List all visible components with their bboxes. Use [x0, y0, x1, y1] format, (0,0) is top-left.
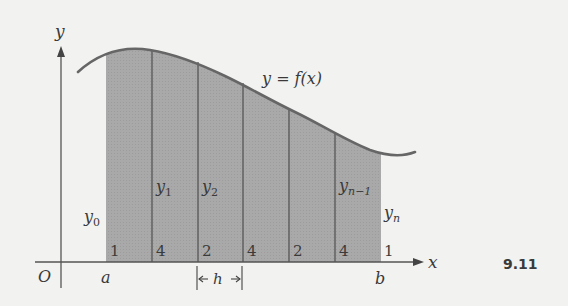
ordinate-y0: y0 [83, 207, 100, 229]
x-axis-label: x [428, 252, 438, 272]
h-label: h [213, 270, 223, 288]
origin-label: O [38, 267, 51, 286]
b-label: b [375, 269, 385, 288]
y-axis-label: y [54, 21, 65, 41]
figure-number: 9.11 [503, 256, 538, 272]
weight: 4 [156, 242, 166, 260]
ordinate-yn: yn [383, 203, 400, 225]
a-label: a [101, 268, 111, 287]
curve-label-text: y = f(x) [261, 69, 322, 88]
weight: 4 [339, 242, 349, 260]
x-axis-arrow-icon [413, 258, 424, 266]
y-axis-arrow-icon [57, 46, 65, 57]
weight: 1 [110, 242, 120, 260]
weight: 1 [384, 242, 394, 260]
simpson-rule-diagram: y x O a b h y = f(x) y0 y1 y2 yn−1 yn 1 … [0, 0, 568, 306]
curve-label: y = f(x) [261, 69, 322, 88]
y-axis [57, 46, 65, 288]
weight: 2 [293, 242, 303, 260]
weight: 4 [247, 242, 257, 260]
weight: 2 [202, 242, 212, 260]
